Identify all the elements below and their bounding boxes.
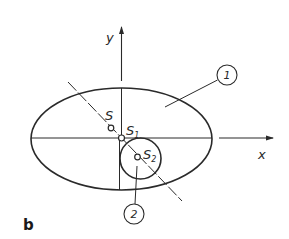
x-axis-label: x (257, 147, 266, 162)
point-S1 (119, 135, 125, 141)
y-axis-label: y (105, 30, 114, 45)
label-S1: S1 (126, 123, 139, 140)
point-S (108, 125, 114, 131)
callout-2-leader (135, 166, 137, 204)
diagram-canvas: S S1 S2 y x 1 2 b (0, 0, 289, 239)
label-S2: S2 (143, 147, 156, 164)
callout-1-leader (165, 80, 218, 107)
callout-2-number: 2 (131, 208, 138, 221)
label-S: S (105, 108, 113, 123)
panel-label: b (23, 216, 34, 234)
centroid-dashed-line (68, 82, 182, 201)
callout-1-number: 1 (224, 69, 231, 82)
point-S2 (135, 154, 141, 160)
